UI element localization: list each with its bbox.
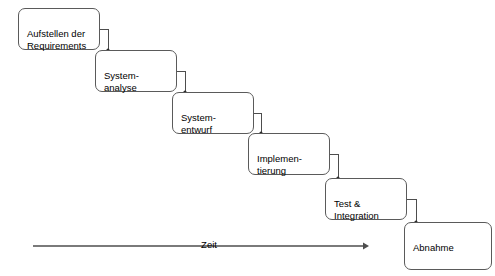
- phase-box-implementierung[interactable]: Implemen- tierung: [248, 133, 330, 175]
- connector-testintegration-to-abnahme: [407, 199, 416, 222]
- connector-implementierung-to-testintegration: [330, 154, 338, 178]
- phase-label: Aufstellen der Requirements: [27, 28, 86, 52]
- time-axis-label: Zeit: [189, 239, 229, 250]
- connector-systementwurf-to-implementierung: [254, 113, 261, 133]
- phase-box-systemanalyse[interactable]: System- analyse: [95, 50, 177, 92]
- phase-label: Test & Integration: [334, 198, 379, 222]
- phase-label: System- analyse: [104, 70, 139, 94]
- phase-box-systementwurf[interactable]: System- entwurf: [172, 92, 254, 134]
- time-axis-arrowhead: [363, 243, 369, 250]
- phase-box-requirements[interactable]: Aufstellen der Requirements: [18, 8, 100, 50]
- phase-label: Abnahme: [413, 242, 454, 253]
- waterfall-model-diagram: Aufstellen der Requirements System- anal…: [0, 0, 495, 276]
- connector-systemanalyse-to-systementwurf: [177, 71, 185, 92]
- phase-box-abnahme[interactable]: Abnahme: [404, 222, 492, 270]
- phase-label: Implemen- tierung: [257, 153, 302, 177]
- phase-box-test-integration[interactable]: Test & Integration: [325, 178, 407, 220]
- connector-requirements-to-systemanalyse: [100, 29, 108, 50]
- phase-label: System- entwurf: [181, 112, 216, 136]
